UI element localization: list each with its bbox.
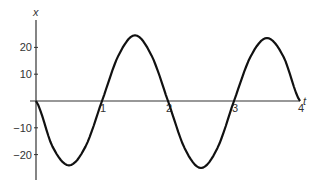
data-curve bbox=[36, 35, 300, 168]
y-tick-label: −20 bbox=[13, 149, 32, 161]
y-tick-label: −10 bbox=[13, 122, 32, 134]
y-tick-label: 20 bbox=[20, 41, 32, 53]
x-tick-label: 4 bbox=[298, 102, 304, 114]
line-chart: x t 2010−10−20 1234 bbox=[0, 0, 317, 189]
y-tick-label: 10 bbox=[20, 68, 32, 80]
x-ticks: 1234 bbox=[100, 102, 304, 114]
y-axis-label: x bbox=[32, 6, 39, 18]
